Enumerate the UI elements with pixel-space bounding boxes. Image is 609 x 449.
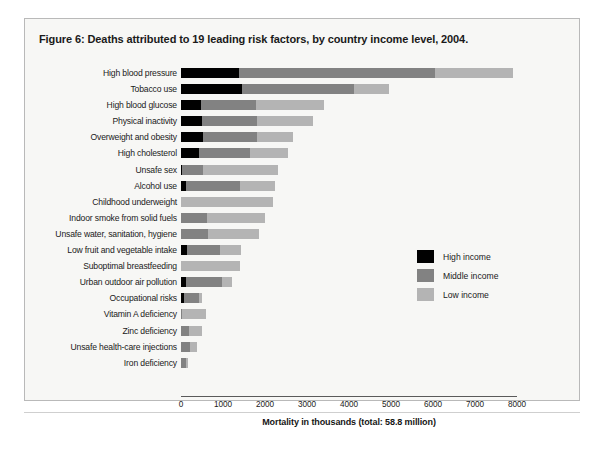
stacked-bar bbox=[181, 165, 278, 175]
bar-segment-low bbox=[181, 197, 273, 207]
legend-item: Middle income bbox=[417, 266, 547, 285]
bar-segment-middle bbox=[181, 229, 208, 239]
legend-swatch-high bbox=[417, 250, 434, 263]
bar-row: High cholesterol bbox=[25, 145, 581, 161]
legend-item: Low income bbox=[417, 285, 547, 304]
bar-row: Childhood underweight bbox=[25, 194, 581, 210]
stacked-bar bbox=[181, 116, 313, 126]
bar-segment-low bbox=[189, 326, 202, 336]
stacked-bar bbox=[181, 245, 241, 255]
bar-rows: High blood pressureTobacco useHigh blood… bbox=[25, 65, 581, 371]
x-tick-label: 7000 bbox=[455, 400, 495, 409]
figure-page: Figure 6: Deaths attributed to 19 leadin… bbox=[0, 0, 609, 449]
stacked-bar bbox=[181, 326, 202, 336]
stacked-bar bbox=[181, 100, 324, 110]
bar-row: Vitamin A deficiency bbox=[25, 306, 581, 322]
bar-segment-low bbox=[435, 68, 513, 78]
category-label: Overweight and obesity bbox=[25, 129, 177, 145]
bar-row: Tobacco use bbox=[25, 81, 581, 97]
stacked-bar bbox=[181, 213, 265, 223]
x-tick-label: 3000 bbox=[287, 400, 327, 409]
bar-segment-high bbox=[181, 148, 199, 158]
bar-row: Indoor smoke from solid fuels bbox=[25, 210, 581, 226]
bar-row: High blood pressure bbox=[25, 65, 581, 81]
category-label: Zinc deficiency bbox=[25, 323, 177, 339]
bar-segment-middle bbox=[181, 326, 189, 336]
bar-segment-low bbox=[250, 148, 288, 158]
stacked-bar bbox=[181, 84, 389, 94]
stacked-bar bbox=[181, 132, 293, 142]
legend-label: Middle income bbox=[443, 271, 498, 281]
category-label: Alcohol use bbox=[25, 178, 177, 194]
bar-segment-middle bbox=[187, 245, 220, 255]
bar-row: Physical inactivity bbox=[25, 113, 581, 129]
stacked-bar bbox=[181, 293, 202, 303]
bar-segment-high bbox=[181, 68, 239, 78]
x-tick-label: 4000 bbox=[329, 400, 369, 409]
bar-segment-high bbox=[181, 84, 242, 94]
category-label: Indoor smoke from solid fuels bbox=[25, 210, 177, 226]
bar-segment-high bbox=[181, 116, 202, 126]
bar-segment-middle bbox=[184, 293, 200, 303]
bar-segment-middle bbox=[242, 84, 354, 94]
category-label: Tobacco use bbox=[25, 81, 177, 97]
bar-row: Unsafe health-care injections bbox=[25, 339, 581, 355]
category-label: Unsafe water, sanitation, hygiene bbox=[25, 226, 177, 242]
legend-item: High income bbox=[417, 247, 547, 266]
bar-segment-middle bbox=[203, 132, 257, 142]
x-tick-label: 6000 bbox=[413, 400, 453, 409]
stacked-bar bbox=[181, 197, 273, 207]
stacked-bar bbox=[181, 148, 288, 158]
bar-segment-middle bbox=[239, 68, 435, 78]
stacked-bar bbox=[181, 277, 232, 287]
figure-frame: Figure 6: Deaths attributed to 19 leadin… bbox=[24, 18, 580, 401]
x-tick-label: 5000 bbox=[371, 400, 411, 409]
category-label: Suboptimal breastfeeding bbox=[25, 258, 177, 274]
bar-segment-low bbox=[181, 261, 240, 271]
bar-segment-low bbox=[257, 116, 313, 126]
category-label: Iron deficiency bbox=[25, 355, 177, 371]
category-label: Physical inactivity bbox=[25, 113, 177, 129]
bar-segment-middle bbox=[199, 148, 250, 158]
category-label: Unsafe health-care injections bbox=[25, 339, 177, 355]
x-axis-line bbox=[181, 396, 517, 397]
x-axis-title: Mortality in thousands (total: 58.8 mill… bbox=[181, 417, 517, 427]
category-label: Urban outdoor air pollution bbox=[25, 274, 177, 290]
bar-segment-low bbox=[222, 277, 232, 287]
stacked-bar bbox=[181, 309, 206, 319]
stacked-bar bbox=[181, 181, 275, 191]
category-label: Occupational risks bbox=[25, 290, 177, 306]
category-label: High cholesterol bbox=[25, 145, 177, 161]
category-label: High blood glucose bbox=[25, 97, 177, 113]
stacked-bar bbox=[181, 229, 259, 239]
legend-swatch-low bbox=[417, 288, 434, 301]
legend-swatch-middle bbox=[417, 269, 434, 282]
x-tick-label: 8000 bbox=[497, 400, 537, 409]
stacked-bar bbox=[181, 68, 513, 78]
bar-segment-middle bbox=[181, 213, 207, 223]
category-label: Unsafe sex bbox=[25, 162, 177, 178]
bar-row: Alcohol use bbox=[25, 178, 581, 194]
bar-row: High blood glucose bbox=[25, 97, 581, 113]
category-label: Low fruit and vegetable intake bbox=[25, 242, 177, 258]
bar-segment-low bbox=[240, 181, 275, 191]
chart-legend: High incomeMiddle incomeLow income bbox=[417, 247, 547, 304]
bar-segment-middle bbox=[182, 165, 203, 175]
bar-row: Unsafe sex bbox=[25, 162, 581, 178]
bar-segment-low bbox=[199, 293, 202, 303]
category-label: Vitamin A deficiency bbox=[25, 306, 177, 322]
bar-segment-low bbox=[354, 84, 389, 94]
bar-row: Iron deficiency bbox=[25, 355, 581, 371]
category-label: Childhood underweight bbox=[25, 194, 177, 210]
bar-segment-middle bbox=[202, 116, 256, 126]
bar-segment-low bbox=[182, 309, 206, 319]
bar-segment-middle bbox=[186, 181, 240, 191]
bar-segment-middle bbox=[181, 342, 190, 352]
x-tick-label: 2000 bbox=[245, 400, 285, 409]
stacked-bar bbox=[181, 342, 197, 352]
bar-segment-low bbox=[208, 229, 259, 239]
bar-segment-middle bbox=[201, 100, 256, 110]
x-tick-label: 0 bbox=[161, 400, 201, 409]
chart-plot-area: High blood pressureTobacco useHigh blood… bbox=[25, 65, 581, 365]
bar-segment-low bbox=[220, 245, 242, 255]
